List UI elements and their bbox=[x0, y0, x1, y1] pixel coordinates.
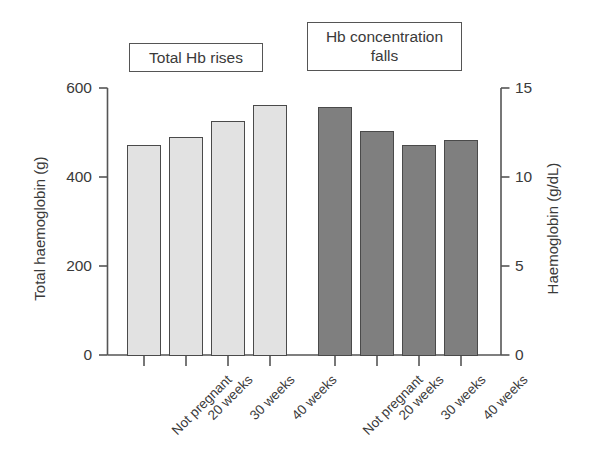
bar-right-1 bbox=[318, 107, 352, 356]
bar-right-3 bbox=[402, 145, 436, 356]
bar-left-4 bbox=[253, 105, 287, 356]
bar-right-2 bbox=[360, 131, 394, 356]
left-tick-label-0: 0 bbox=[40, 347, 92, 363]
bar-left-3 bbox=[211, 121, 245, 356]
right-axis-title: Haemoglobin (g/dL) bbox=[544, 129, 561, 329]
right-tick-label-0: 0 bbox=[515, 347, 567, 363]
chart-figure: 600 400 200 0 15 10 5 0 Total haemoglobi… bbox=[0, 0, 590, 476]
left-tick-label-200: 200 bbox=[40, 258, 92, 274]
bar-right-4 bbox=[444, 140, 478, 356]
callout-right-line2: falls bbox=[371, 47, 399, 64]
bar-left-2 bbox=[169, 137, 203, 356]
bar-left-1 bbox=[127, 145, 161, 356]
callout-total-hb-rises: Total Hb rises bbox=[129, 43, 263, 72]
left-axis-title: Total haemoglobin (g) bbox=[31, 129, 48, 329]
callout-right-line1: Hb concentration bbox=[326, 28, 443, 45]
left-tick-label-600: 600 bbox=[40, 80, 92, 96]
left-tick-label-400: 400 bbox=[40, 169, 92, 185]
callout-hb-concentration-falls: Hb concentration falls bbox=[307, 22, 462, 71]
right-tick-label-15: 15 bbox=[515, 80, 567, 96]
